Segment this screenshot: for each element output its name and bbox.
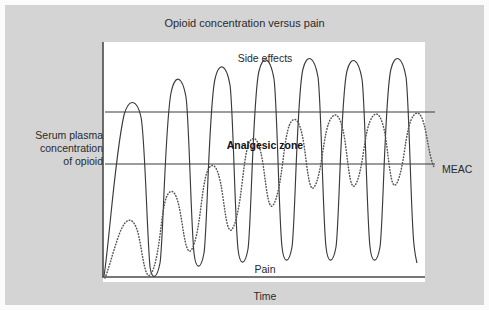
chart-title: Opioid concentration versus pain xyxy=(5,17,484,30)
plot-area-background xyxy=(103,42,425,282)
meac-line-label: MEAC xyxy=(442,163,472,176)
figure-container: Opioid concentration versus pain Serum p… xyxy=(0,0,489,310)
side-effects-region-label: Side effects xyxy=(165,52,365,65)
x-axis-label: Time xyxy=(185,290,345,303)
pain-region-label: Pain xyxy=(185,263,345,276)
y-axis-label: Serum plasma concentration of opioid xyxy=(11,129,103,167)
analgesic-zone-label: Analgesic zone xyxy=(175,139,355,152)
